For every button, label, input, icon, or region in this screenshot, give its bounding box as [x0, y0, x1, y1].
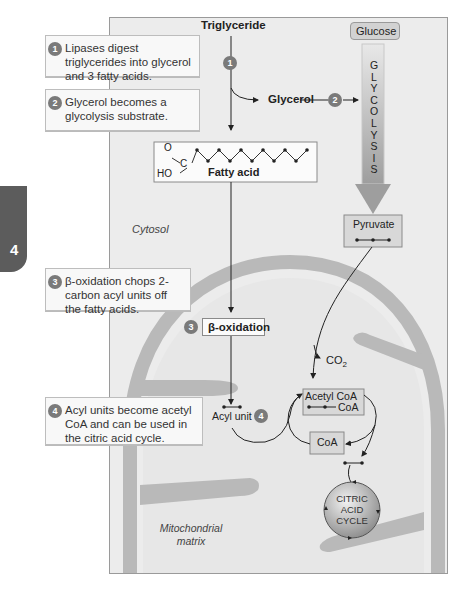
step-marker-1: 1: [223, 56, 237, 70]
glycolysis-letters: G L Y C O L Y S I S: [369, 60, 379, 176]
step-marker-3: 3: [184, 320, 198, 334]
callout-1: 1 Lipases digest triglycerides into glyc…: [45, 35, 200, 77]
callout-text: β-oxidation chops 2-carbon acyl units of…: [65, 274, 186, 316]
beta-oxidation-box: β-oxidation: [202, 318, 265, 336]
hydroxyl-label: HO: [157, 168, 172, 179]
citric-acid-cycle-label: CITRIC ACID CYCLE: [332, 493, 372, 526]
cytosol-label: Cytosol: [132, 223, 169, 235]
callout-number: 4: [48, 404, 62, 418]
acyl-unit-label: Acyl unit: [212, 410, 252, 422]
callout-number: 3: [48, 275, 62, 289]
mitochondrial-matrix-label: Mitochondrial matrix: [158, 522, 224, 548]
glycerol-label: Glycerol: [268, 93, 314, 105]
callout-number: 1: [48, 42, 62, 56]
callout-number: 2: [48, 96, 62, 110]
acetyl-coa-sub-label: CoA: [338, 401, 358, 413]
fatty-acid-label: Fatty acid: [208, 166, 259, 178]
co2-label: CO2: [326, 354, 347, 369]
triglyceride-label: Triglyceride: [201, 19, 266, 31]
coa-label: CoA: [317, 436, 337, 448]
callout-text: Glycerol becomes a glycolysis substrate.: [65, 95, 195, 123]
callout-2: 2 Glycerol becomes a glycolysis substrat…: [45, 89, 200, 131]
pyruvate-label: Pyruvate: [353, 218, 394, 230]
callout-4: 4 Acyl units become acetyl CoA and can b…: [45, 397, 203, 445]
callout-text: Lipases digest triglycerides into glycer…: [65, 41, 195, 83]
carbon-label: C: [180, 158, 187, 169]
oxygen-label: O: [164, 142, 172, 153]
beta-oxidation-label: β-oxidation: [208, 321, 270, 333]
step-marker-2: 2: [328, 93, 342, 107]
glucose-box: Glucose: [350, 22, 400, 40]
callout-text: Acyl units become acetyl CoA and can be …: [65, 403, 198, 445]
step-marker-4: 4: [254, 409, 268, 423]
glucose-label: Glucose: [356, 25, 396, 37]
callout-3: 3 β-oxidation chops 2-carbon acyl units …: [45, 268, 191, 311]
